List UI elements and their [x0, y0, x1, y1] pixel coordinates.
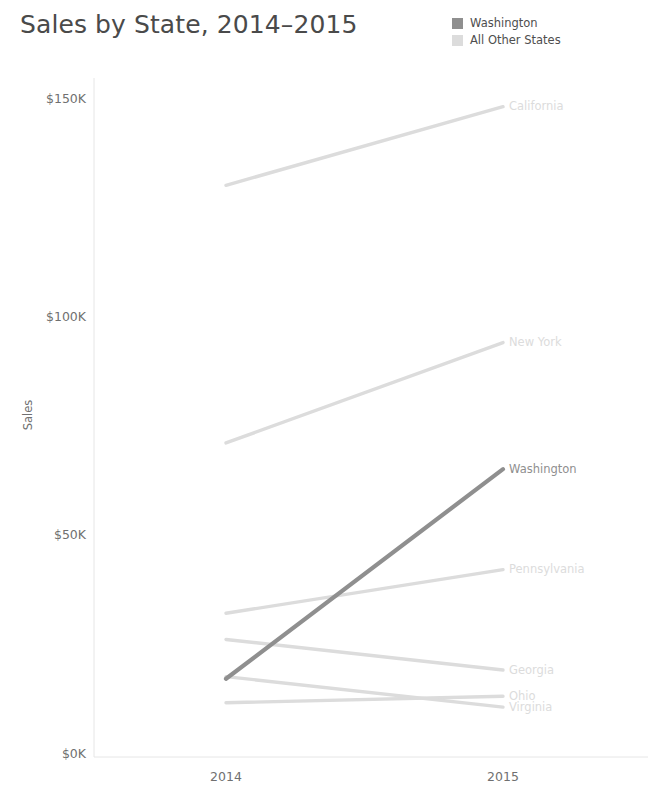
plot-area: $0K$50K$100K$150K Sales 20142015 Califor… [0, 0, 652, 798]
series-end-label: Georgia [509, 663, 554, 677]
x-axis-tick-label: 2015 [487, 769, 519, 784]
y-axis-tick-label: $50K [54, 527, 87, 542]
y-axis-tick-label: $150K [46, 91, 87, 106]
series-lines-group [226, 107, 503, 707]
series-end-label: New York [509, 335, 562, 349]
chart-page: Sales by State, 2014–2015 Washington All… [0, 0, 652, 798]
series-line[interactable] [226, 107, 503, 186]
y-axis-tick-label: $100K [46, 309, 87, 324]
series-line[interactable] [226, 343, 503, 443]
series-line[interactable] [226, 639, 503, 670]
slope-chart-svg: $0K$50K$100K$150K Sales 20142015 Califor… [0, 0, 652, 798]
x-axis-ticks: 20142015 [210, 769, 519, 784]
x-axis-tick-label: 2014 [210, 769, 242, 784]
y-axis-title: Sales [21, 400, 35, 431]
y-axis-tick-label: $0K [62, 746, 87, 761]
series-line[interactable] [226, 469, 503, 679]
y-axis-ticks: $0K$50K$100K$150K [46, 91, 87, 761]
series-end-label: California [509, 99, 564, 113]
series-end-label: Pennsylvania [509, 562, 585, 576]
series-end-label: Washington [509, 462, 577, 476]
series-labels-group: CaliforniaNew YorkPennsylvaniaGeorgiaOhi… [509, 99, 585, 713]
series-end-label: Virginia [509, 700, 552, 714]
